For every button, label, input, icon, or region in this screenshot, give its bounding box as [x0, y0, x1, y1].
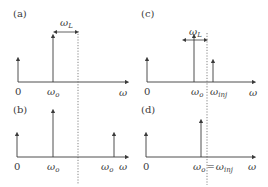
omega-o-label: ωo [47, 161, 59, 174]
origin-label: 0 [14, 161, 20, 172]
origin-label: 0 [15, 86, 21, 97]
injection-locking-spectrum-diagram: (a) ωL 0 ωo ω (b) 0 ωo ωo ω (c) ωL [0, 0, 268, 187]
omega-o-equals-omega-inj-label: ωo=ωinj [193, 161, 234, 174]
omega-o-label: ωo [191, 86, 203, 99]
panel-a-label: (a) [13, 8, 27, 19]
panel-d-label: (d) [141, 104, 155, 115]
panel-c: (c) ωL 0 ωo ωinj ω [141, 8, 257, 99]
axis-omega-label: ω [119, 161, 127, 172]
origin-label: 0 [144, 86, 150, 97]
panel-c-label: (c) [141, 8, 155, 19]
locking-range-label: ωL [60, 17, 73, 30]
panel-d: (d) 0 ωo=ωinj ω [141, 104, 256, 174]
omega-o-label: ωo [47, 86, 59, 99]
axis-omega-label: ω [119, 87, 127, 98]
axis-omega-label: ω [249, 87, 257, 98]
panel-a: (a) ωL 0 ωo ω [13, 8, 127, 99]
locking-range-label: ωL [189, 26, 202, 39]
panel-b-label: (b) [13, 104, 27, 115]
omega-inj-label: ωinj [210, 86, 228, 99]
axis-omega-label: ω [248, 161, 256, 172]
origin-label: 0 [143, 161, 149, 172]
panel-b: (b) 0 ωo ωo ω [13, 104, 127, 174]
second-omega-o-label: ωo [101, 161, 113, 174]
